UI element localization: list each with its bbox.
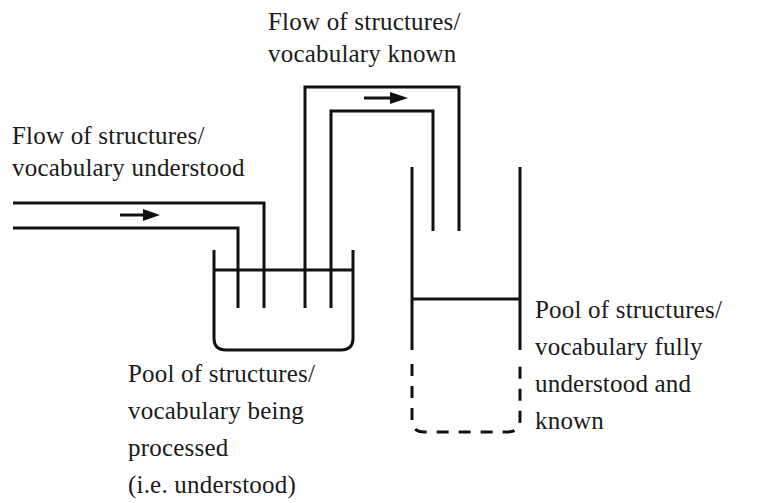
pipe-flow-understood [13, 203, 264, 308]
arrow-right-icon [364, 92, 408, 104]
label-line: Pool of structures/ [535, 291, 722, 328]
diagram-canvas: Flow of structures/ vocabulary understoo… [0, 0, 778, 503]
label-line: vocabulary understood [12, 152, 245, 184]
pipe-flow-known [305, 87, 459, 308]
label-line: (i.e. understood) [128, 466, 315, 503]
label-line: Flow of structures/ [268, 6, 461, 38]
dashed-tank-bottom [412, 364, 520, 432]
tank-pool-known [412, 167, 520, 432]
label-pool-known: Pool of structures/ vocabulary fully und… [535, 291, 722, 439]
label-line: known [535, 402, 722, 439]
label-pool-processed: Pool of structures/ vocabulary being pro… [128, 355, 315, 503]
label-line: Flow of structures/ [12, 120, 245, 152]
label-line: understood and [535, 365, 722, 402]
label-line: processed [128, 429, 315, 466]
label-flow-known: Flow of structures/ vocabulary known [268, 6, 461, 70]
label-line: Pool of structures/ [128, 355, 315, 392]
label-flow-understood: Flow of structures/ vocabulary understoo… [12, 120, 245, 184]
label-line: vocabulary being [128, 392, 315, 429]
label-line: vocabulary fully [535, 328, 722, 365]
label-line: vocabulary known [268, 38, 461, 70]
arrow-right-icon [120, 209, 160, 221]
